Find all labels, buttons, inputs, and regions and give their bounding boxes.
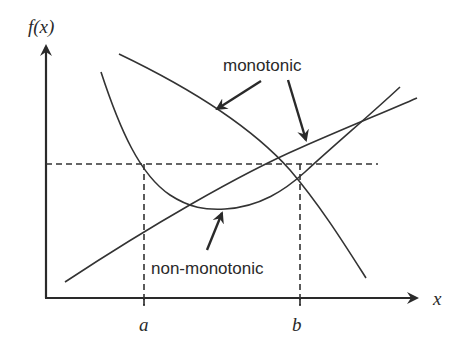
tick-a-label: a bbox=[139, 314, 149, 335]
x-axis-label: x bbox=[432, 288, 442, 309]
monotonicity-diagram: f(x) x a b monotonic non-monotonic bbox=[0, 0, 458, 347]
monotonic-label: monotonic bbox=[223, 56, 302, 75]
y-axis-label: f(x) bbox=[28, 16, 54, 38]
non-monotonic-curve bbox=[101, 72, 400, 209]
monotonic-pointer-right bbox=[288, 80, 306, 140]
tick-b-label: b bbox=[292, 314, 302, 335]
non-monotonic-pointer bbox=[207, 213, 222, 250]
monotonic-pointer-left bbox=[217, 81, 261, 109]
monotonic-decreasing-curve bbox=[119, 54, 366, 278]
non-monotonic-label: non-monotonic bbox=[151, 259, 264, 278]
